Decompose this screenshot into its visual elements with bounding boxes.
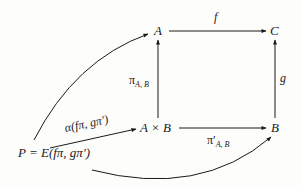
node-p-equalizer: P = E(fπ, gπ′) — [18, 146, 90, 159]
node-c: C — [270, 24, 279, 37]
node-a: A — [154, 24, 162, 37]
pi-prime-symbol: π′ — [207, 133, 216, 147]
pi-subscript: A, B — [135, 80, 149, 89]
arrow-p-to-b — [92, 137, 271, 179]
label-g: g — [280, 72, 286, 84]
label-pi-prime-ab: π′A, B — [207, 134, 229, 149]
pi-prime-subscript: A, B — [216, 140, 230, 149]
label-f: f — [214, 11, 217, 23]
node-a-times-b: A × B — [140, 121, 171, 134]
commutative-diagram: A C A × B B P = E(fπ, gπ′) f g πA, B π′A… — [0, 0, 302, 186]
label-pi-ab: πA, B — [129, 74, 149, 89]
node-b: B — [271, 121, 279, 134]
